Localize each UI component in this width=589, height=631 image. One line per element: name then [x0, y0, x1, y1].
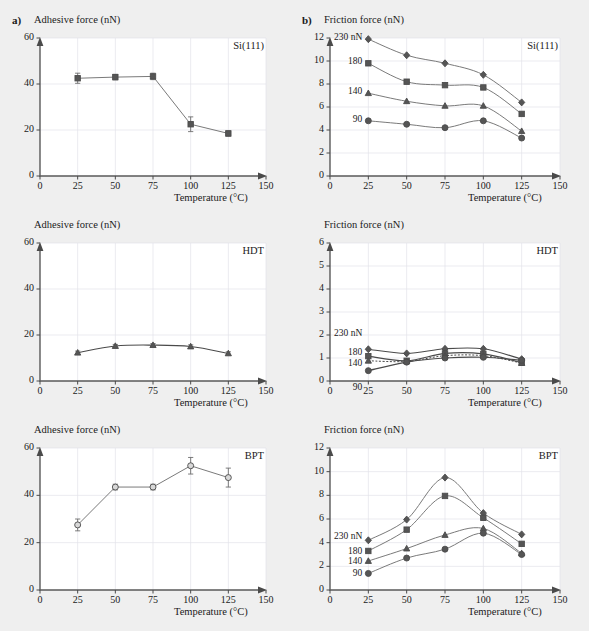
x-tick-label: 75: [139, 385, 167, 396]
y-tick-label: 0: [300, 583, 324, 594]
x-tick-label: 75: [431, 385, 459, 396]
y-axis-title: Adhesive force (nN): [34, 219, 120, 230]
x-tick-label: 75: [431, 594, 459, 605]
legend-label-90: 90: [310, 382, 362, 392]
data-point-circle: [519, 357, 525, 363]
data-point-circle: [365, 368, 371, 374]
x-tick-label: 50: [101, 385, 129, 396]
legend-label-180: 180: [310, 546, 362, 556]
data-point-circle: [404, 121, 410, 127]
x-tick-label: 50: [393, 180, 421, 191]
x-tick-label: 125: [214, 385, 242, 396]
x-axis-title: Temperature (°C): [468, 192, 542, 203]
x-tick-label: 125: [214, 594, 242, 605]
data-point-circle: [480, 118, 486, 124]
data-point-circle: [519, 135, 525, 141]
data-point-circle: [75, 522, 81, 528]
legend-label-230: 230 nN: [310, 32, 362, 42]
x-tick-label: 150: [546, 180, 574, 191]
y-tick-label: 20: [10, 536, 34, 547]
y-tick-label: 4: [300, 123, 324, 134]
y-tick-label: 6: [300, 512, 324, 523]
chart-a-si: Adhesive force (nN)Temperature (°C)Si(11…: [10, 14, 288, 210]
data-point-circle: [480, 354, 486, 360]
chart-b-hdt: Friction force (nN)Temperature (°C)HDT02…: [300, 219, 582, 415]
x-axis-title: Temperature (°C): [468, 397, 542, 408]
x-tick-label: 100: [469, 180, 497, 191]
x-tick-label: 25: [354, 594, 382, 605]
data-point-square: [113, 74, 118, 79]
figure-root: Adhesive force (nN)Temperature (°C)Si(11…: [0, 0, 589, 631]
panel-label-a: a): [12, 14, 21, 26]
y-tick-label: 2: [300, 146, 324, 157]
data-point-square: [404, 527, 409, 532]
x-tick-label: 0: [26, 180, 54, 191]
y-axis-title: Friction force (nN): [324, 424, 404, 435]
x-tick-label: 150: [252, 594, 280, 605]
legend-label-90: 90: [310, 114, 362, 124]
data-point-circle: [150, 484, 156, 490]
legend-label-140: 140: [310, 556, 362, 566]
data-point-circle: [442, 125, 448, 131]
x-tick-label: 150: [546, 385, 574, 396]
x-tick-label: 50: [101, 594, 129, 605]
data-point-square: [188, 122, 193, 127]
sample-label: HDT: [498, 245, 558, 256]
x-tick-label: 125: [508, 385, 536, 396]
x-tick-label: 100: [469, 385, 497, 396]
x-axis-title: Temperature (°C): [174, 397, 248, 408]
x-tick-label: 0: [316, 180, 344, 191]
y-tick-label: 60: [10, 31, 34, 42]
y-tick-label: 8: [300, 488, 324, 499]
data-point-square: [75, 76, 80, 81]
y-tick-label: 20: [10, 328, 34, 339]
data-point-circle: [404, 555, 410, 561]
data-point-circle: [519, 552, 525, 558]
legend-label-230: 230 nN: [310, 531, 362, 541]
y-tick-label: 0: [10, 169, 34, 180]
sample-label: Si(111): [498, 40, 558, 51]
legend-label-180: 180: [310, 56, 362, 66]
y-tick-label: 0: [300, 169, 324, 180]
x-tick-label: 100: [469, 594, 497, 605]
chart-b-bpt: Friction force (nN)Temperature (°C)BPT02…: [300, 424, 582, 624]
y-tick-label: 0: [10, 374, 34, 385]
sample-label: BPT: [498, 450, 558, 461]
y-tick-label: 6: [300, 236, 324, 247]
x-tick-label: 25: [64, 385, 92, 396]
x-tick-label: 50: [393, 385, 421, 396]
data-point-circle: [112, 484, 118, 490]
x-tick-label: 25: [64, 594, 92, 605]
legend-label-230: 230 nN: [310, 328, 362, 338]
x-tick-label: 150: [252, 180, 280, 191]
data-point-circle: [480, 530, 486, 536]
data-point-circle: [365, 118, 371, 124]
data-point-circle: [225, 475, 231, 481]
sample-label: BPT: [204, 450, 264, 461]
x-tick-label: 50: [101, 180, 129, 191]
panel-label-b: b): [302, 14, 312, 26]
x-tick-label: 150: [252, 385, 280, 396]
data-point-circle: [442, 546, 448, 552]
chart-a-hdt: Adhesive force (nN)Temperature (°C)HDT02…: [10, 219, 288, 415]
data-point-square: [481, 515, 486, 520]
x-tick-label: 125: [508, 180, 536, 191]
data-point-square: [404, 79, 409, 84]
chart-a-bpt: Adhesive force (nN)Temperature (°C)BPT02…: [10, 424, 288, 624]
x-axis-title: Temperature (°C): [468, 606, 542, 617]
y-tick-label: 4: [300, 282, 324, 293]
chart-b-si: Friction force (nN)Temperature (°C)Si(11…: [300, 14, 582, 210]
legend-label-140: 140: [310, 86, 362, 96]
y-tick-label: 40: [10, 488, 34, 499]
x-tick-label: 125: [214, 180, 242, 191]
y-tick-label: 60: [10, 236, 34, 247]
y-tick-label: 0: [10, 583, 34, 594]
y-axis-title: Friction force (nN): [324, 219, 404, 230]
x-axis-title: Temperature (°C): [174, 192, 248, 203]
y-tick-label: 12: [300, 441, 324, 452]
x-tick-label: 0: [316, 594, 344, 605]
x-tick-label: 50: [393, 594, 421, 605]
y-tick-label: 40: [10, 77, 34, 88]
x-tick-label: 100: [177, 180, 205, 191]
data-point-square: [442, 493, 447, 498]
